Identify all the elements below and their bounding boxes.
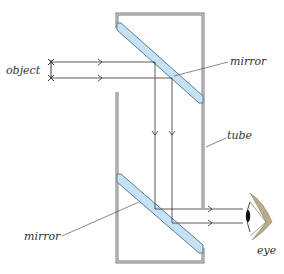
periscope-diagram: object mirror tube mirror eye bbox=[0, 0, 284, 274]
eye-label: eye bbox=[257, 244, 277, 257]
mirror-top-label: mirror bbox=[230, 55, 267, 68]
tube bbox=[117, 14, 203, 262]
object-label: object bbox=[6, 64, 41, 77]
bottom-mirror bbox=[117, 174, 203, 253]
tube-upper-wall bbox=[117, 14, 203, 208]
diagram-canvas: object mirror tube mirror eye bbox=[0, 0, 284, 274]
top-mirror bbox=[117, 23, 203, 103]
tube-label: tube bbox=[227, 129, 253, 142]
eye-icon bbox=[246, 193, 272, 240]
mirror-bottom-label: mirror bbox=[24, 230, 61, 243]
